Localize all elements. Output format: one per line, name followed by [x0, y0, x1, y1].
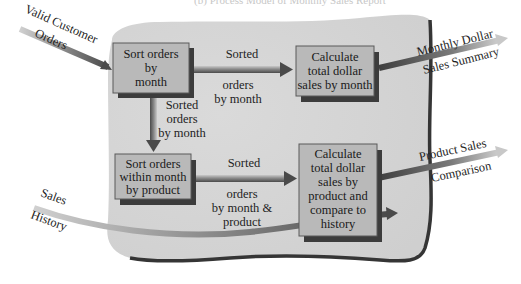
- process-label: compare to: [310, 203, 366, 217]
- diagram-title: (b) Process Model of Monthly Sales Repor…: [194, 0, 386, 7]
- flow-label: orders: [226, 187, 257, 201]
- process-label: Calculate: [311, 50, 359, 64]
- flow-label: orders: [222, 78, 253, 92]
- flow-label: Sorted: [166, 98, 199, 112]
- process-calculate-sales-by-product-compare-history: Calculate total dollar sales by product …: [299, 144, 382, 242]
- process-label: history: [321, 217, 356, 231]
- flow-label: Sorted: [226, 47, 259, 61]
- process-label: by product: [126, 183, 180, 197]
- process-label: total dollar: [311, 161, 366, 175]
- process-sort-orders-by-month: Sort orders by month: [113, 43, 194, 98]
- process-calculate-total-dollar-sales-by-month: Calculate total dollar sales by month: [296, 46, 379, 102]
- process-label: month: [135, 75, 168, 89]
- arrowhead-icon: [495, 146, 508, 158]
- process-label: sales by month: [298, 78, 374, 92]
- process-label: by: [145, 61, 158, 75]
- process-label: total dollar: [308, 64, 363, 78]
- process-label: within month: [119, 170, 187, 184]
- flow-valid-customer-orders: Valid Customer Orders: [20, 2, 112, 70]
- flow-label: product: [223, 215, 262, 229]
- flow-label: by month: [214, 92, 262, 106]
- flow-label: by month &: [212, 201, 273, 215]
- process-sort-orders-within-month-by-product: Sort orders within month by product: [115, 154, 196, 205]
- process-label: sales by: [318, 175, 359, 189]
- process-model-diagram: (b) Process Model of Monthly Sales Repor…: [0, 0, 521, 284]
- process-label: Calculate: [314, 147, 362, 161]
- flow-label: by month: [158, 126, 206, 140]
- flow-label: Sales: [39, 186, 69, 208]
- flow-label: Sorted: [228, 156, 261, 170]
- process-label: Sort orders: [123, 47, 178, 61]
- process-label: Sort orders: [125, 157, 180, 171]
- process-label: product and: [308, 189, 368, 203]
- flow-label: orders: [166, 112, 197, 126]
